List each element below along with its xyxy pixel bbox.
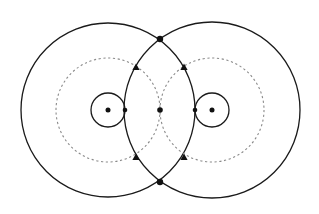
vesica-diagram — [0, 0, 319, 214]
right-center-point — [210, 108, 215, 113]
points — [106, 36, 215, 185]
center-point — [157, 107, 163, 113]
right-small-touch-point — [193, 108, 198, 113]
top-intersection-point — [157, 36, 163, 42]
left-small-touch-point — [123, 108, 128, 113]
bottom-intersection-point — [157, 179, 163, 185]
arrow-top-left-icon — [132, 63, 139, 69]
left-center-point — [106, 108, 111, 113]
arrow-bottom-left-icon — [132, 153, 139, 159]
